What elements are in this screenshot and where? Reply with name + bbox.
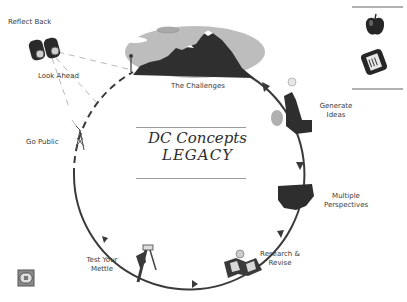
legacy-cycle-diagram: Reflect Back Look Ahead The Challenges G… bbox=[0, 0, 407, 302]
title-rule-top bbox=[136, 127, 246, 128]
arrowhead-icon bbox=[296, 162, 304, 170]
label-multiple-perspectives[interactable]: Multiple Perspectives bbox=[322, 192, 370, 210]
open-book-icon bbox=[224, 250, 262, 278]
label-reflect-back[interactable]: Reflect Back bbox=[8, 18, 51, 27]
arrowhead-icon bbox=[277, 230, 284, 238]
arrowhead-icon bbox=[102, 236, 108, 243]
tools-icon bbox=[136, 245, 156, 282]
cycle-path-dashed bbox=[74, 72, 133, 175]
label-research-revise[interactable]: Research & Revise bbox=[258, 250, 302, 268]
label-the-challenges[interactable]: The Challenges bbox=[170, 82, 226, 91]
notepad-icon[interactable] bbox=[360, 48, 388, 76]
arrowhead-icon bbox=[192, 280, 198, 288]
binoculars-icon bbox=[28, 37, 62, 62]
label-generate-ideas[interactable]: Generate Ideas bbox=[314, 102, 358, 120]
label-test-your-mettle[interactable]: Test Your Mettle bbox=[82, 256, 122, 274]
apple-icon[interactable] bbox=[362, 12, 388, 38]
mountains-icon bbox=[123, 26, 265, 78]
thinker-lightbulb-icon bbox=[271, 78, 312, 134]
stop-sign-icon[interactable] bbox=[17, 269, 35, 287]
title-rule-bottom bbox=[136, 178, 246, 179]
label-look-ahead[interactable]: Look Ahead bbox=[38, 72, 79, 81]
label-go-public[interactable]: Go Public bbox=[26, 138, 59, 147]
diagram-title: DC Concepts LEGACY bbox=[130, 130, 265, 164]
us-map-icon bbox=[278, 184, 314, 210]
